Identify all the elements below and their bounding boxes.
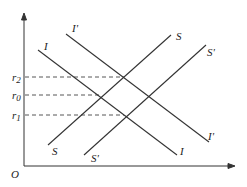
dashed-guides — [25, 77, 124, 115]
label-S-top: S — [176, 30, 182, 42]
tick-r2: r2 — [12, 71, 21, 85]
curves — [38, 34, 209, 155]
diagram-canvas: I I I' I' S S S' S' r2 r0 r1 O — [0, 0, 247, 187]
y-axis-arrow-icon — [22, 13, 27, 20]
label-I-top: I — [43, 40, 49, 52]
x-axis-arrow-icon — [228, 164, 235, 169]
label-S-prime-top: S' — [207, 46, 216, 58]
label-S-bottom: S — [52, 145, 58, 157]
label-S-prime-bottom: S' — [91, 152, 100, 164]
label-I-prime-bottom: I' — [207, 130, 215, 142]
curve-S — [48, 35, 171, 145]
tick-r0: r0 — [12, 89, 21, 103]
label-I-bottom: I — [179, 145, 185, 157]
label-I-prime-top: I' — [71, 22, 79, 34]
tick-r1: r1 — [12, 109, 21, 123]
is-diagram: I I I' I' S S S' S' r2 r0 r1 O — [0, 0, 247, 187]
origin-label: O — [11, 168, 19, 180]
